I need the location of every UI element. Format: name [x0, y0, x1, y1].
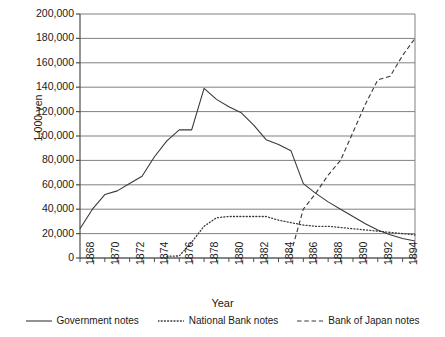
x-axis-tick-labels: 1868187018721874187618781880188218841886… [0, 0, 445, 337]
legend-entry: National Bank notes [158, 315, 279, 326]
x-axis-tick-label: 1878 [209, 242, 220, 265]
x-axis-title: Year [0, 297, 445, 309]
x-axis-tick-label: 1892 [383, 242, 394, 265]
legend-label: Bank of Japan notes [328, 315, 419, 326]
x-axis-tick-label: 1888 [333, 242, 344, 265]
x-axis-tick-label: 1894 [408, 242, 419, 265]
x-axis-tick-label: 1870 [110, 242, 121, 265]
legend-entry: Bank of Japan notes [297, 315, 419, 326]
x-axis-tick-label: 1886 [308, 242, 319, 265]
legend-swatch-dashed [297, 317, 323, 325]
x-axis-tick-label: 1890 [358, 242, 369, 265]
legend-swatch-solid [26, 317, 52, 325]
x-axis-tick-label: 1868 [85, 242, 96, 265]
chart-figure: 1,000 yen 200,000180,000160,000140,00012… [0, 0, 445, 337]
x-axis-tick-label: 1876 [184, 242, 195, 265]
legend-swatch-dotted [158, 317, 184, 325]
legend-label: Government notes [57, 315, 139, 326]
x-axis-tick-label: 1872 [135, 242, 146, 265]
x-axis-tick-label: 1882 [259, 242, 270, 265]
x-axis-tick-label: 1884 [284, 242, 295, 265]
legend-entry: Government notes [26, 315, 139, 326]
chart-legend: Government notesNational Bank notesBank … [0, 315, 445, 326]
legend-label: National Bank notes [189, 315, 279, 326]
x-axis-tick-label: 1880 [234, 242, 245, 265]
x-axis-tick-label: 1874 [159, 242, 170, 265]
